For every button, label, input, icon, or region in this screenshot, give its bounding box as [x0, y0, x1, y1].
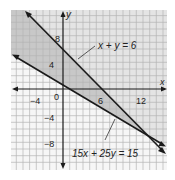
line-label-x-plus-y-eq-6: x + y = 6	[97, 40, 137, 51]
x-tick-12: 12	[136, 96, 146, 106]
x-tick-neg4: −4	[30, 96, 40, 106]
graph: y x 8 4 0 −4 −8 −4 6 12 x + y = 6 15x + …	[0, 0, 175, 180]
x-axis-label: x	[159, 77, 165, 87]
y-tick-8: 8	[55, 34, 60, 44]
x-tick-6: 6	[98, 96, 103, 106]
y-tick-neg4: −4	[44, 113, 54, 123]
origin-label: 0	[54, 92, 59, 102]
y-axis-label: y	[65, 9, 72, 20]
y-tick-4: 4	[49, 60, 54, 70]
line-label-15x-plus-25y-eq-15: 15x + 25y = 15	[72, 148, 139, 159]
y-tick-neg8: −8	[44, 139, 54, 149]
